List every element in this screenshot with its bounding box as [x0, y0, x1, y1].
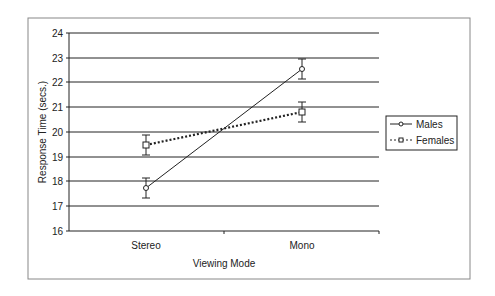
svg-text:21: 21 [52, 102, 64, 113]
legend-circle-icon [399, 122, 403, 126]
y-axis-label: Response Time (secs.) [37, 81, 48, 183]
svg-text:20: 20 [52, 127, 64, 138]
marker-square-icon [143, 142, 149, 148]
svg-text:23: 23 [52, 53, 64, 64]
x-tick-mono: Mono [289, 240, 314, 251]
svg-text:18: 18 [52, 176, 64, 187]
legend-square-icon [399, 138, 403, 142]
marker-circle-icon [144, 186, 149, 191]
marker-square-icon [299, 109, 305, 115]
y-tick-labels: 24 23 22 21 20 19 18 17 16 [52, 28, 64, 237]
x-tick-stereo: Stereo [131, 240, 161, 251]
legend-males: Males [416, 119, 443, 130]
marker-circle-icon [300, 67, 305, 72]
legend-females: Females [416, 135, 454, 146]
svg-text:24: 24 [52, 28, 64, 39]
svg-text:17: 17 [52, 201, 64, 212]
chart: 24 23 22 21 20 19 18 17 16 Response Time… [0, 0, 495, 296]
svg-text:16: 16 [52, 226, 64, 237]
svg-text:22: 22 [52, 77, 64, 88]
x-axis-label: Viewing Mode [193, 258, 256, 269]
svg-text:19: 19 [52, 152, 64, 163]
legend: Males Females [386, 116, 457, 150]
